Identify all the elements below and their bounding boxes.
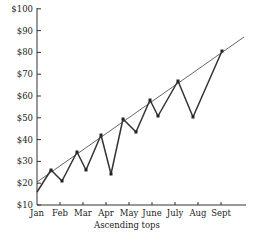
- trendline: [37, 37, 244, 182]
- x-tick-label: July: [166, 208, 184, 218]
- x-axis-title: Ascending tops: [93, 220, 160, 230]
- x-tick-label: May: [120, 208, 139, 218]
- ascending-tops-chart: $10$20$30$40$50$60$70$80$90$100 JanFebMa…: [0, 0, 262, 242]
- x-axis-ticks: JanFebMarAprMayJuneJulyAugSept: [29, 202, 231, 218]
- x-tick-label: Sept: [211, 208, 231, 218]
- x-tick-label: Jan: [29, 208, 44, 218]
- y-tick-label: $90: [17, 26, 33, 36]
- y-tick-label: $50: [17, 113, 33, 123]
- x-tick-label: Aug: [188, 208, 207, 218]
- x-tick-label: Feb: [52, 208, 68, 218]
- y-tick-label: $20: [17, 178, 33, 188]
- y-tick-label: $100: [11, 4, 33, 14]
- y-tick-label: $30: [17, 156, 33, 166]
- x-tick-label: Mar: [74, 208, 93, 218]
- y-tick-label: $40: [17, 135, 33, 145]
- y-tick-label: $80: [17, 47, 33, 57]
- y-tick-label: $70: [17, 69, 33, 79]
- x-tick-label: June: [141, 208, 161, 218]
- x-tick-label: Apr: [97, 208, 115, 218]
- y-tick-label: $60: [17, 91, 33, 101]
